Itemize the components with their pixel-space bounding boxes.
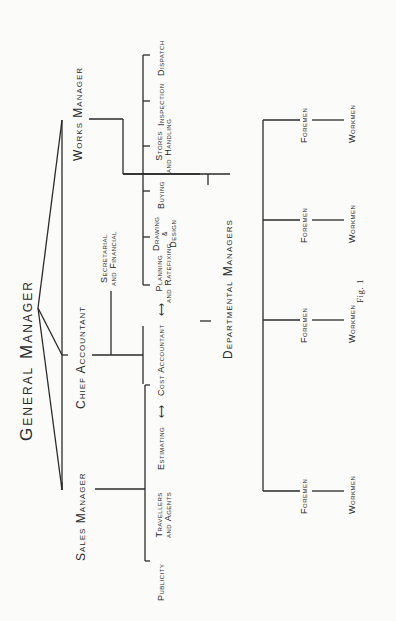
stores-line2: and Handling (164, 119, 173, 173)
connector-lines (0, 0, 396, 621)
departmental-managers-label: Departmental Managers (222, 219, 234, 359)
drawing-line2: Design (169, 217, 178, 251)
secretarial-line2: and Financial (109, 231, 118, 286)
dispatch-label: Dispatch (157, 40, 166, 76)
foremen-1: Foremen (300, 479, 309, 514)
publicity-label: Publicity (157, 563, 166, 601)
workmen-4: Workmen (348, 105, 357, 143)
travellers-line2: and Agents (164, 492, 173, 538)
works-manager-label: Works Manager (72, 67, 84, 161)
sales-manager-label: Sales Manager (75, 472, 87, 561)
general-manager-label: General Manager (18, 280, 35, 441)
foremen-3: Foremen (300, 208, 309, 243)
planning-ratefixing-label: Planning and Ratefixing (155, 243, 174, 303)
travellers-agents-label: Travellers and Agents (155, 492, 174, 538)
inspection-label: Inspection (157, 83, 166, 126)
cost-accountant-label: Cost Accountant (157, 324, 166, 396)
drawing-design-label: Drawing & Design (152, 217, 178, 251)
foremen-2: Foremen (300, 308, 309, 343)
drawing-line1: Drawing (152, 217, 161, 251)
arrow-right: ⟷ (157, 303, 166, 317)
chief-accountant-label: Chief Accountant (75, 306, 87, 409)
secretarial-financial-label: Secretarial and Financial (100, 231, 119, 286)
workmen-1: Workmen (348, 476, 357, 514)
arrow-left: ⟷ (157, 405, 166, 419)
foremen-4: Foremen (300, 108, 309, 143)
planning-line2: and Ratefixing (164, 243, 173, 303)
stores-handling-label: Stores and Handling (155, 119, 174, 173)
workmen-2: Workmen (348, 305, 357, 343)
figure-caption: Fig. 1 (356, 279, 365, 303)
org-chart-figure: General Manager Works Manager Chief Acco… (0, 0, 396, 621)
estimating-label: Estimating (157, 427, 166, 470)
workmen-3: Workmen (348, 205, 357, 243)
buying-label: Buying (157, 181, 166, 209)
